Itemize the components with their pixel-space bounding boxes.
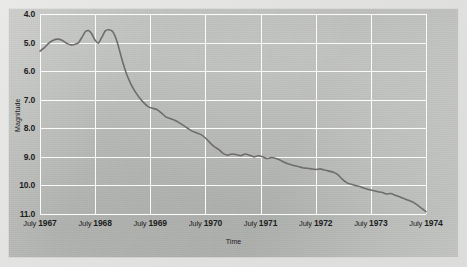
x-tick-label: July 1971: [244, 218, 277, 228]
y-tick-label: 6.0: [24, 66, 35, 76]
x-axis-label: Time: [0, 238, 467, 245]
magnitude-line-path: [40, 30, 426, 212]
y-tick-label: 9.0: [24, 152, 35, 162]
y-tick-label: 8.0: [24, 123, 35, 133]
y-tick-label: 7.0: [24, 95, 35, 105]
magnitude-line-series: [40, 14, 426, 214]
y-axis-label: Magnitude: [14, 98, 21, 132]
gridline-vertical: [426, 14, 427, 214]
x-tick-label: July 1972: [299, 218, 332, 228]
y-tick-label: 5.0: [24, 38, 35, 48]
x-tick-label: July 1968: [78, 218, 111, 228]
x-tick-label: July 1973: [354, 218, 387, 228]
plot-area: 4.05.06.07.08.09.010.011.0 July 1967July…: [40, 14, 426, 214]
x-tick-label: July 1974: [409, 218, 442, 228]
x-tick-label: July 1969: [134, 218, 167, 228]
y-tick-label: 10.0: [19, 180, 35, 190]
x-tick-label: July 1967: [23, 218, 56, 228]
x-tick-label: July 1970: [189, 218, 222, 228]
gridline-horizontal: [40, 214, 426, 215]
y-tick-label: 4.0: [24, 9, 35, 19]
figure: Magnitude Time 4.05.06.07.08.09.010.011.…: [0, 0, 467, 267]
